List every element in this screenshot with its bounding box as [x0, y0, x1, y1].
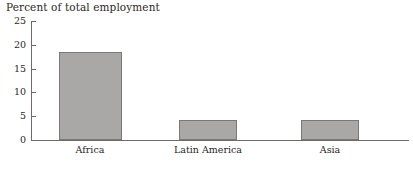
x-axis-category-label: Latin America [143, 144, 273, 156]
y-axis-tick-label: 15 [0, 64, 26, 74]
bar [59, 52, 122, 140]
y-axis-tick-label: 10 [0, 87, 26, 97]
bar [179, 120, 237, 140]
plot-area: 0 5 10 15 20 25 Africa Latin America Asi… [0, 0, 413, 171]
bar [301, 120, 359, 140]
y-axis-tick-label: 25 [0, 16, 26, 26]
x-axis-category-label: Africa [25, 144, 155, 156]
y-axis-tick [31, 116, 36, 117]
x-axis-line [31, 140, 409, 141]
y-axis-tick [31, 21, 36, 22]
bar-chart-figure: Percent of total employment 0 5 10 15 20… [0, 0, 413, 171]
y-axis-tick [31, 140, 36, 141]
y-axis-tick [31, 92, 36, 93]
y-axis-line [31, 21, 32, 140]
y-axis-tick-label: 5 [0, 111, 26, 121]
y-axis-tick-label: 20 [0, 40, 26, 50]
y-axis-tick-label: 0 [0, 135, 26, 145]
y-axis-tick [31, 45, 36, 46]
y-axis-tick [31, 69, 36, 70]
x-axis-category-label: Asia [265, 144, 395, 156]
